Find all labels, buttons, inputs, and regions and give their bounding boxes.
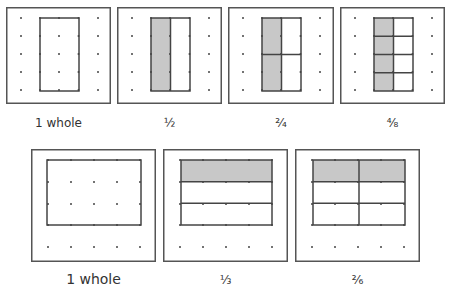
peg-dot: [242, 89, 244, 91]
peg-dot: [431, 53, 433, 55]
peg-dot: [131, 89, 133, 91]
peg-dot: [242, 35, 244, 37]
shaded-part: [181, 160, 272, 182]
peg-dot: [58, 53, 60, 55]
peg-dot: [58, 35, 60, 37]
peg-dot: [242, 17, 244, 19]
peg-dot: [20, 89, 22, 91]
peg-dot: [70, 181, 72, 183]
peg-dot: [225, 246, 227, 248]
peg-dot: [357, 246, 359, 248]
shaded-part: [313, 160, 359, 182]
peg-dot: [354, 35, 356, 37]
peg-dot: [131, 17, 133, 19]
peg-dot: [202, 246, 204, 248]
peg-dot: [431, 35, 433, 37]
peg-dot: [70, 246, 72, 248]
peg-dot: [271, 246, 273, 248]
peg-dot: [334, 246, 336, 248]
peg-dot: [208, 89, 210, 91]
peg-dot: [139, 246, 141, 248]
peg-dot: [380, 246, 382, 248]
peg-dot: [97, 35, 99, 37]
peg-dot: [20, 35, 22, 37]
peg-dot: [319, 17, 321, 19]
peg-dot: [311, 246, 313, 248]
peg-dot: [354, 17, 356, 19]
peg-dot: [47, 246, 49, 248]
label-top-four-eighths: ⁴⁄₈: [340, 116, 445, 130]
peg-dot: [116, 181, 118, 183]
label-top-half: ½: [117, 116, 222, 130]
peg-dot: [208, 53, 210, 55]
label-top-two-fourths: ²⁄₄: [228, 116, 334, 130]
peg-dot: [431, 17, 433, 19]
shaded-part: [359, 160, 405, 182]
shaded-part: [374, 18, 394, 36]
peg-dot: [97, 17, 99, 19]
peg-dot: [248, 246, 250, 248]
geoboard-frame: [7, 8, 111, 104]
peg-dot: [354, 53, 356, 55]
shaded-part: [151, 18, 171, 91]
peg-dot: [319, 89, 321, 91]
peg-dot: [208, 71, 210, 73]
peg-dot: [354, 89, 356, 91]
shaded-part: [374, 36, 394, 54]
peg-dot: [242, 71, 244, 73]
peg-dot: [97, 71, 99, 73]
shaded-part: [262, 55, 282, 92]
peg-dot: [208, 17, 210, 19]
peg-dot: [116, 203, 118, 205]
label-bottom-third: ⅓: [163, 273, 288, 287]
peg-dot: [97, 89, 99, 91]
peg-dot: [179, 246, 181, 248]
peg-dot: [70, 203, 72, 205]
peg-dot: [20, 17, 22, 19]
peg-dot: [354, 71, 356, 73]
peg-dot: [20, 53, 22, 55]
label-bottom-two-sixths: ²⁄₆: [295, 273, 420, 287]
peg-dot: [319, 53, 321, 55]
shaded-part: [262, 18, 282, 55]
geoboard-diagram: [0, 0, 452, 295]
peg-dot: [242, 53, 244, 55]
geoboard-frame: [32, 150, 156, 262]
label-bottom-whole: 1 whole: [31, 271, 156, 287]
label-top-whole: 1 whole: [6, 116, 111, 130]
peg-dot: [20, 71, 22, 73]
shaded-part: [374, 73, 394, 91]
peg-dot: [93, 246, 95, 248]
peg-dot: [58, 71, 60, 73]
shaded-part: [374, 55, 394, 73]
peg-dot: [319, 71, 321, 73]
peg-dot: [431, 71, 433, 73]
peg-dot: [403, 246, 405, 248]
peg-dot: [319, 35, 321, 37]
peg-dot: [97, 53, 99, 55]
peg-dot: [131, 71, 133, 73]
peg-dot: [431, 89, 433, 91]
peg-dot: [208, 35, 210, 37]
peg-dot: [131, 35, 133, 37]
peg-dot: [131, 53, 133, 55]
peg-dot: [93, 181, 95, 183]
peg-dot: [116, 246, 118, 248]
peg-dot: [93, 203, 95, 205]
